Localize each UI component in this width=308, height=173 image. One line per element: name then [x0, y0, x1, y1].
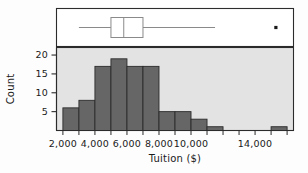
y-axis-ticks: 5101520: [36, 49, 57, 117]
histogram-panel: 5101520 2,0004,0006,0008,00010,00014,000: [36, 48, 294, 149]
histogram-bar: [207, 127, 223, 131]
x-tick-label: 8,000: [145, 138, 173, 149]
histogram-bar: [191, 119, 207, 130]
x-axis-ticks: 2,0004,0006,0008,00010,00014,000: [49, 131, 287, 149]
x-tick-label: 10,000: [174, 138, 208, 149]
histogram-bar: [175, 112, 191, 131]
histogram-bar: [143, 66, 159, 130]
histogram-bar: [111, 59, 127, 131]
histogram-bar: [63, 108, 79, 131]
histogram-bar: [79, 100, 95, 130]
x-tick-label: 14,000: [238, 138, 272, 149]
boxplot-outlier-point: [274, 26, 277, 29]
boxplot-box: [111, 18, 143, 38]
y-tick-label: 5: [42, 106, 48, 117]
y-axis-title: Count: [5, 74, 16, 105]
histogram-bar: [95, 66, 111, 130]
boxplot-panel: [57, 9, 294, 47]
x-axis-title: Tuition ($): [148, 153, 201, 164]
x-tick-label: 2,000: [49, 138, 77, 149]
x-tick-label: 6,000: [113, 138, 141, 149]
y-tick-label: 20: [36, 49, 49, 60]
tuition-distribution-figure: 5101520 2,0004,0006,0008,00010,00014,000…: [0, 0, 308, 173]
histogram-bar: [127, 66, 143, 130]
histogram-bar: [159, 112, 175, 131]
x-tick-label: 4,000: [81, 138, 109, 149]
y-tick-label: 10: [36, 87, 49, 98]
chart-canvas: 5101520 2,0004,0006,0008,00010,00014,000…: [0, 0, 308, 173]
y-tick-label: 15: [36, 68, 49, 79]
histogram-bar: [271, 127, 287, 131]
